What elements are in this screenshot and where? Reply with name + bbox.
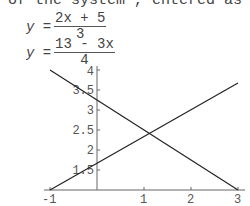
y-ticks: 1.5 2 2.5 3 3.5 4: [72, 65, 100, 178]
x-tick-label: 3: [234, 193, 241, 206]
y-tick-label: 2: [87, 144, 94, 158]
y-tick-label: 2.5: [72, 124, 94, 138]
y-tick-label: 3: [87, 104, 94, 118]
x-tick-label: 1: [140, 193, 147, 206]
line-plot: -1 1 2 3 1.5 2 2.5 3 3.5 4: [0, 0, 250, 206]
x-tick-label: 2: [187, 193, 194, 206]
y-tick-label: 4: [87, 65, 94, 79]
x-tick-label: -1: [42, 193, 56, 206]
